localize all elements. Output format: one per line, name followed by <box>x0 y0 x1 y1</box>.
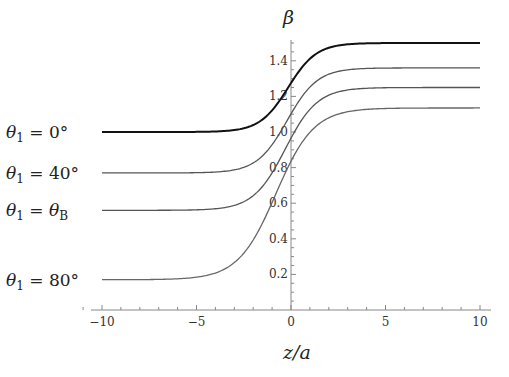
y-tick-label: 1.0 <box>269 125 288 139</box>
x-tick-label: 10 <box>472 315 487 329</box>
y-tick-label: 0.2 <box>269 267 288 281</box>
x-tick-label: −10 <box>89 315 114 329</box>
y-tick-label: 1.4 <box>269 54 288 68</box>
legend: θ1 = 0°θ1 = 40°θ1 = θBθ1 = 80° <box>6 122 79 293</box>
x-ticks: −10−50510 <box>83 305 488 329</box>
y-tick-label: 0.4 <box>269 232 288 246</box>
legend-label-3: θ1 = 80° <box>6 270 79 293</box>
chart-canvas: −10−50510 0.20.40.60.81.01.21.4 θ1 = 0°θ… <box>0 0 509 377</box>
legend-label-1: θ1 = 40° <box>6 163 79 186</box>
x-axis-title: z/a <box>282 341 311 363</box>
axes: −10−50510 0.20.40.60.81.01.21.4 <box>83 40 491 329</box>
y-axis-title: β <box>282 6 294 28</box>
legend-label-0: θ1 = 0° <box>6 122 68 145</box>
x-tick-label: 0 <box>287 315 295 329</box>
x-tick-label: 5 <box>382 315 390 329</box>
x-tick-label: −5 <box>188 315 206 329</box>
legend-label-2: θ1 = θB <box>6 200 68 223</box>
